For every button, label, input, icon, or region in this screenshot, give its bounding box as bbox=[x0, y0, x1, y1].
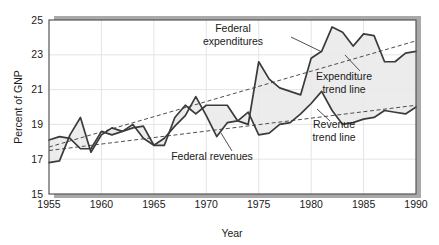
y-axis-tick-labels: 252321191715 bbox=[31, 14, 43, 200]
y-tick-21: 21 bbox=[31, 83, 43, 95]
gnp-line-chart: 252321191715 195519601965197019751980198… bbox=[0, 0, 439, 245]
chart-figure: 252321191715 195519601965197019751980198… bbox=[0, 0, 439, 245]
x-tick-1990: 1990 bbox=[404, 198, 428, 210]
x-axis-title: Year bbox=[221, 227, 243, 239]
y-tick-23: 23 bbox=[31, 48, 43, 60]
x-tick-1975: 1975 bbox=[247, 198, 271, 210]
y-tick-17: 17 bbox=[31, 153, 43, 165]
expenditure-trend-line-label: Expendituretrend line bbox=[316, 70, 372, 95]
x-tick-1970: 1970 bbox=[195, 198, 219, 210]
x-tick-1955: 1955 bbox=[37, 198, 61, 210]
x-axis-tick-labels: 19551960196519701975198019851990 bbox=[37, 198, 428, 210]
x-tick-1980: 1980 bbox=[299, 198, 323, 210]
y-tick-25: 25 bbox=[31, 14, 43, 26]
y-axis-title: Percent of GNP bbox=[12, 70, 24, 144]
x-tick-1960: 1960 bbox=[90, 198, 114, 210]
x-tick-1985: 1985 bbox=[352, 198, 376, 210]
federal-revenues-label: Federal revenues bbox=[171, 150, 253, 162]
x-tick-1965: 1965 bbox=[142, 198, 166, 210]
y-tick-19: 19 bbox=[31, 118, 43, 130]
revenue-trend-line-label: Revenuetrend line bbox=[312, 118, 355, 143]
